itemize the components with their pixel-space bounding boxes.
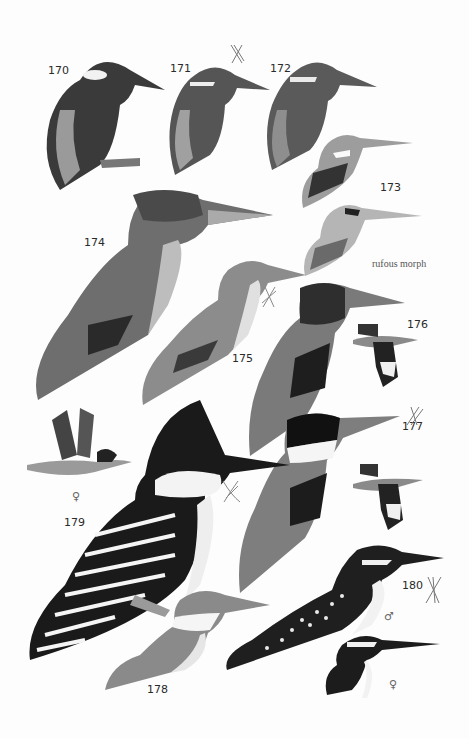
species-number-174: 174 — [84, 236, 105, 249]
x-mark-icon — [220, 478, 242, 504]
kingfisher-180-female-illustration — [322, 630, 442, 700]
rufous-morph-caption: rufous morph — [372, 258, 426, 269]
species-number-173: 173 — [380, 181, 401, 194]
species-number-170: 170 — [48, 64, 69, 77]
female-symbol-180: ♀ — [389, 678, 397, 691]
x-mark-icon — [228, 43, 246, 65]
species-number-171: 171 — [170, 62, 191, 75]
field-guide-plate: 170 171 172 173 rufous morph 174 — [0, 0, 469, 739]
species-number-172: 172 — [270, 62, 291, 75]
kingfisher-176-flight-illustration — [348, 322, 423, 392]
x-mark-icon — [405, 405, 425, 427]
kingfisher-171-illustration — [165, 60, 275, 185]
kingfisher-177-flight-illustration — [348, 462, 428, 534]
species-number-176: 176 — [407, 318, 428, 331]
male-symbol-180: ♂ — [384, 610, 394, 623]
species-number-180: 180 — [402, 579, 423, 592]
species-number-178: 178 — [147, 683, 168, 696]
x-mark-icon — [423, 575, 445, 605]
